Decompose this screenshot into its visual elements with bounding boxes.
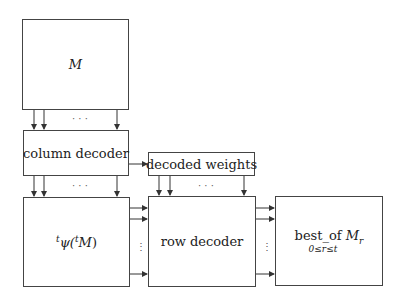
node-best-of-subscript: 0≤r≤t — [309, 244, 364, 254]
node-decoded-weights: decoded weights — [148, 152, 255, 176]
node-column-decoder: column decoder — [23, 130, 129, 176]
node-column-decoder-label: column decoder — [23, 146, 129, 161]
node-psi-label: tψ(tM) — [56, 234, 97, 250]
node-decoded-weights-label: decoded weights — [146, 157, 257, 172]
ellipsis-weights-rowdec: · · · — [198, 180, 214, 191]
node-psi: tψ(tM) — [23, 197, 130, 287]
ellipsis-coldec-psi: · · · — [72, 180, 88, 191]
node-m-label: M — [69, 57, 82, 72]
node-m: M — [22, 19, 129, 110]
node-best-of: best_of Mr 0≤r≤t — [275, 196, 383, 286]
ellipsis-rowdec-best: ⋮ — [262, 241, 272, 252]
node-row-decoder-label: row decoder — [161, 234, 244, 249]
node-row-decoder: row decoder — [148, 196, 256, 287]
node-best-of-label: best_of Mr 0≤r≤t — [295, 228, 364, 254]
ellipsis-m-coldec: · · · — [72, 113, 88, 124]
ellipsis-psi-rowdec: ⋮ — [136, 241, 146, 252]
